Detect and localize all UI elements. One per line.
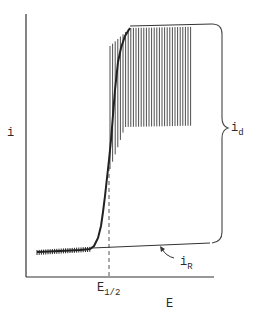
- y-axis-label: i: [7, 127, 14, 139]
- ir-arrowhead-icon: [160, 246, 165, 252]
- x-axis-label: E: [166, 298, 173, 310]
- rising-wave: [37, 28, 130, 252]
- id-label: id: [231, 122, 244, 134]
- id-brace: [212, 24, 228, 243]
- ir-sub: R: [187, 262, 192, 272]
- id-sub: d: [238, 128, 243, 138]
- ir-label: iR: [180, 256, 193, 268]
- e-half-sub: 1/2: [104, 288, 120, 298]
- e-half-label: E1/2: [97, 282, 120, 294]
- oscillation-lines: [110, 27, 191, 169]
- residual-current-line: [92, 243, 210, 248]
- plateau-top-line: [130, 24, 212, 26]
- polarogram-plot: [0, 0, 259, 321]
- ir-arrow: [162, 249, 174, 258]
